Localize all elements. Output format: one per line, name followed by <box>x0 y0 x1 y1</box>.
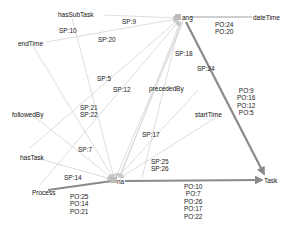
node-followedby[interactable]: followedBy <box>12 111 43 118</box>
edge-label-po-datetime: PO:24 PO:20 <box>215 21 233 36</box>
edge-label-line: SP:20 <box>98 36 116 43</box>
edge-label-sp7: SP:7 <box>78 146 92 153</box>
edge-label-line: PO:10 <box>184 183 202 190</box>
edge-label-line: PO:16 <box>237 94 255 101</box>
node-na[interactable]: na <box>117 178 124 185</box>
edge-label-sp20: SP:20 <box>98 36 116 43</box>
edge-label-sp5: SP:5 <box>97 75 111 82</box>
edge-label-line: SP:26 <box>151 165 169 172</box>
node-task[interactable]: Task <box>264 177 277 184</box>
edge-label-line: PO:9 <box>237 87 255 94</box>
edge-label-line: SP:24 <box>197 65 215 72</box>
edge-label-line: PO:12 <box>237 102 255 109</box>
edge-label-line: PO:21 <box>70 208 88 215</box>
edge-label-line: SP:7 <box>78 146 92 153</box>
edge-label-line: PO:14 <box>70 200 88 207</box>
node-precededby[interactable]: precededBy <box>149 85 184 92</box>
edge-label-line: PO:22 <box>184 213 202 220</box>
thin-edges-to-na <box>33 18 215 179</box>
node-hassubtask[interactable]: hasSubTask <box>58 11 93 18</box>
node-ang-marker <box>175 14 181 20</box>
edge-label-sp12: SP:12 <box>113 86 131 93</box>
node-endtime[interactable]: endTime <box>18 40 43 47</box>
edge-label-line: PO:5 <box>237 109 255 116</box>
edge-label-po-process: PO:25 PO:14 PO:21 <box>70 193 88 215</box>
edge-label-line: PO:25 <box>70 193 88 200</box>
edge-label-line: SP:9 <box>122 18 136 25</box>
edge-label-sp10: SP:10 <box>59 27 77 34</box>
node-hastask[interactable]: hasTask <box>20 154 44 161</box>
edge-label-line: SP:18 <box>175 50 193 57</box>
edge-label-line: PO:26 <box>184 198 202 205</box>
edge-label-line: SP:22 <box>80 111 98 118</box>
node-starttime[interactable]: startTime <box>195 111 222 118</box>
node-process[interactable]: Process <box>32 189 55 196</box>
edge-label-line: PO:17 <box>184 205 202 212</box>
edge-label-sp25-26: SP:25 SP:26 <box>151 158 169 173</box>
edge-label-sp21-22: SP:21 SP:22 <box>80 104 98 119</box>
node-ang[interactable]: ang <box>182 14 193 21</box>
edge-label-line: SP:12 <box>113 86 131 93</box>
node-markers <box>110 14 181 183</box>
edge-label-line: SP:10 <box>59 27 77 34</box>
node-datetime[interactable]: dateTime <box>253 14 280 21</box>
edge-label-line: PO:7 <box>184 190 202 197</box>
edge-label-line: SP:21 <box>80 104 98 111</box>
edge-label-po-task-bottom: PO:10 PO:7 PO:26 PO:17 PO:22 <box>184 183 202 220</box>
node-na-marker <box>110 177 117 183</box>
edge-label-sp24: SP:24 <box>197 65 215 72</box>
edge-label-sp17: SP:17 <box>142 131 160 138</box>
edge-label-line: SP:25 <box>151 158 169 165</box>
edge-label-sp14: SP:14 <box>64 174 82 181</box>
edge-label-line: SP:5 <box>97 75 111 82</box>
edge-label-line: SP:14 <box>64 174 82 181</box>
edge-label-line: SP:17 <box>142 131 160 138</box>
edge-label-po-task-right: PO:9 PO:16 PO:12 PO:5 <box>237 87 255 117</box>
edge-label-line: PO:24 <box>215 21 233 28</box>
edge-label-line: PO:20 <box>215 28 233 35</box>
edge-label-sp9: SP:9 <box>122 18 136 25</box>
edge-label-sp18: SP:18 <box>175 50 193 57</box>
